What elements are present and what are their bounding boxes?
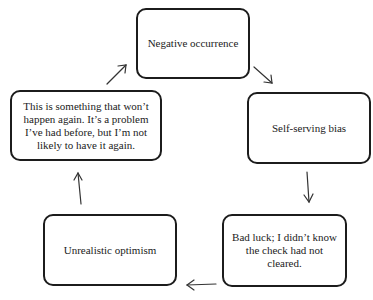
node-self-serving-bias: Self-serving bias — [247, 92, 371, 164]
node-label: Unrealistic optimism — [64, 244, 157, 257]
arrow-bottom-left-to-left — [74, 173, 82, 204]
node-label: Negative occurrence — [148, 37, 239, 50]
node-bad-luck: Bad luck; I didn’t know the check had no… — [222, 214, 347, 287]
node-wont-happen-again: This is something that won’t happen agai… — [10, 90, 162, 161]
node-negative-occurrence: Negative occurrence — [136, 8, 250, 79]
arrow-top-to-right — [254, 67, 272, 83]
node-label: Self-serving bias — [272, 122, 346, 135]
node-label: Bad luck; I didn’t know the check had no… — [230, 231, 339, 270]
arrow-bottom-right-to-bottom-left — [187, 280, 216, 290]
arrow-left-to-top — [107, 65, 126, 84]
node-unrealistic-optimism: Unrealistic optimism — [43, 214, 177, 286]
node-label: This is something that won’t happen agai… — [18, 100, 154, 152]
arrow-right-to-bottom-right — [304, 172, 313, 202]
